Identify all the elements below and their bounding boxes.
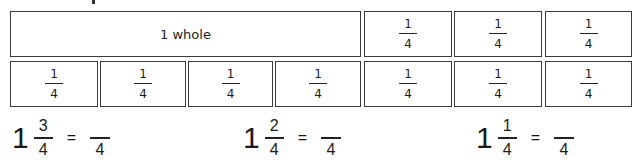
quarter-strip-bottom-6: 1 4 [454, 61, 542, 107]
fraction: 1 4 [45, 68, 63, 101]
cropped-mark [92, 0, 95, 4]
fraction: 1 4 [580, 18, 598, 51]
numerator: 1 [494, 68, 502, 83]
denominator: 4 [404, 34, 412, 50]
whole-number: 1 [243, 123, 260, 153]
numerator: 1 [50, 68, 58, 83]
denominator: 4 [494, 84, 502, 100]
fraction: 1 4 [222, 68, 240, 101]
denominator: 4 [494, 34, 502, 50]
numerator: 1 [227, 68, 235, 83]
denominator: 4 [227, 84, 235, 100]
answer-denominator: 4 [560, 142, 569, 158]
numerator: 1 [314, 68, 322, 83]
equals-sign: = [298, 129, 307, 147]
fraction-bar [265, 137, 284, 139]
quarter-strip-bottom-3: 1 4 [188, 61, 273, 107]
denominator: 4 [503, 142, 512, 158]
denominator: 4 [585, 84, 593, 100]
mixed-fraction: 3 4 [34, 118, 53, 158]
answer-fraction[interactable]: 4 [321, 118, 341, 158]
denominator: 4 [314, 84, 322, 100]
numerator: 1 [404, 68, 412, 83]
answer-fraction[interactable]: 4 [554, 118, 574, 158]
denominator: 4 [270, 142, 279, 158]
denominator: 4 [50, 84, 58, 100]
fraction-bar [498, 137, 517, 139]
quarter-strip-bottom-4: 1 4 [275, 61, 361, 107]
quarter-strip-bottom-1: 1 4 [10, 61, 98, 107]
numerator: 1 [585, 68, 593, 83]
equals-sign: = [531, 129, 540, 147]
whole-number: 1 [476, 123, 493, 153]
whole-number: 1 [12, 123, 29, 153]
equation-1: 1 3 4 = 4 [12, 118, 110, 158]
equals-sign: = [67, 129, 76, 147]
whole-strip: 1 whole [10, 11, 361, 57]
quarter-strip-bottom-5: 1 4 [364, 61, 452, 107]
fraction: 1 4 [309, 68, 327, 101]
denominator: 4 [404, 84, 412, 100]
equation-2: 1 2 4 = 4 [243, 118, 341, 158]
fraction: 1 4 [580, 68, 598, 101]
answer-denominator: 4 [96, 142, 105, 158]
mixed-fraction: 1 4 [498, 118, 517, 158]
fraction-bar [554, 137, 574, 139]
fraction: 1 4 [489, 68, 507, 101]
quarter-strip-top-3: 1 4 [545, 11, 632, 57]
numerator: 1 [139, 68, 147, 83]
fraction-bar [90, 137, 110, 139]
fraction: 1 4 [134, 68, 152, 101]
fraction: 1 4 [399, 18, 417, 51]
denominator: 4 [139, 84, 147, 100]
numerator: 3 [39, 118, 48, 134]
quarter-strip-bottom-2: 1 4 [100, 61, 186, 107]
numerator: 1 [494, 18, 502, 33]
equation-3: 1 1 4 = 4 [476, 118, 574, 158]
fraction-bar [321, 137, 341, 139]
fraction: 1 4 [399, 68, 417, 101]
fraction: 1 4 [489, 18, 507, 51]
denominator: 4 [39, 142, 48, 158]
numerator: 1 [404, 18, 412, 33]
quarter-strip-top-2: 1 4 [454, 11, 542, 57]
answer-fraction[interactable]: 4 [90, 118, 110, 158]
numerator: 2 [270, 118, 279, 134]
quarter-strip-top-1: 1 4 [364, 11, 452, 57]
numerator: 1 [585, 18, 593, 33]
answer-denominator: 4 [327, 142, 336, 158]
numerator: 1 [503, 118, 512, 134]
whole-label: 1 whole [160, 27, 211, 42]
fraction-bar [34, 137, 53, 139]
quarter-strip-bottom-7: 1 4 [545, 61, 632, 107]
mixed-fraction: 2 4 [265, 118, 284, 158]
denominator: 4 [585, 34, 593, 50]
